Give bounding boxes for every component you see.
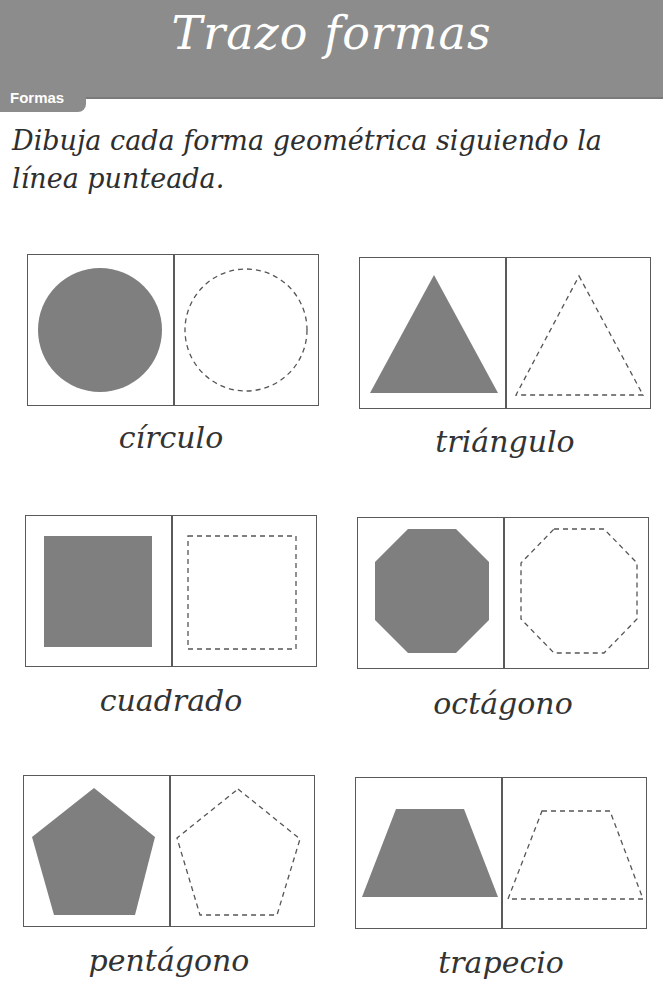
shape-label: pentágono bbox=[23, 943, 315, 978]
header-banner: Trazo formas bbox=[0, 0, 663, 99]
shape-card-octagon bbox=[357, 517, 649, 669]
card-divider bbox=[503, 518, 505, 668]
shape-label: círculo bbox=[25, 420, 317, 455]
shape-card-triangle bbox=[359, 257, 651, 409]
card-divider bbox=[173, 255, 175, 405]
page-title: Trazo formas bbox=[0, 6, 663, 60]
section-tab: Formas bbox=[0, 84, 86, 112]
shape-card-trapezoid bbox=[355, 777, 647, 929]
shape-label: cuadrado bbox=[25, 683, 317, 718]
card-divider bbox=[501, 778, 503, 928]
card-divider bbox=[171, 516, 173, 666]
shape-label: octágono bbox=[357, 686, 649, 721]
shape-label: trapecio bbox=[355, 945, 647, 980]
card-divider bbox=[169, 776, 171, 926]
shape-label: triángulo bbox=[359, 424, 651, 459]
shape-card-pentagon bbox=[23, 775, 315, 927]
card-divider bbox=[505, 258, 507, 408]
shape-card-square bbox=[25, 515, 317, 667]
instructions-text: Dibuja cada forma geométrica siguiendo l… bbox=[12, 122, 632, 198]
shape-card-circle bbox=[27, 254, 319, 406]
